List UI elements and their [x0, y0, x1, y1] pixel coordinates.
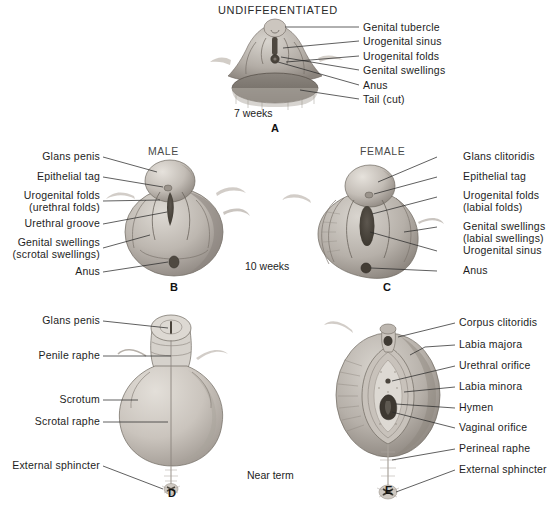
label-hymen: Hymen [459, 402, 493, 414]
stage-7-weeks: 7 weeks [234, 107, 273, 119]
label-external-sphincter-e: External sphincter [459, 464, 547, 476]
label-scrotum: Scrotum [0, 394, 100, 406]
label-tail-cut: Tail (cut) [363, 94, 405, 106]
panel-letter-e: E [385, 484, 392, 496]
label-labia-majora: Labia majora [459, 339, 522, 351]
panel-b-heading: MALE [148, 145, 179, 157]
illustration-panel-a [210, 19, 343, 110]
label-corpus-clitoridis: Corpus clitoridis [459, 317, 537, 329]
panel-a-heading: UNDIFFERENTIATED [218, 4, 338, 16]
label-anus-b: Anus [0, 266, 100, 278]
label-glans-penis-d: Glans penis [0, 315, 100, 327]
label-genital-swellings-c: Genital swellings [463, 221, 545, 233]
label-epithelial-tag-b: Epithelial tag [0, 171, 100, 183]
label-urogenital-sinus-c: Urogenital sinus [463, 245, 542, 257]
figure-external-genitalia-development: UNDIFFERENTIATED Genital tubercle Urogen… [0, 0, 551, 505]
label-external-sphincter-d: External sphincter [0, 460, 100, 472]
label-penile-raphe: Penile raphe [0, 350, 100, 362]
label-epithelial-tag-c: Epithelial tag [463, 171, 526, 183]
label-urethral-orifice: Urethral orifice [459, 360, 531, 372]
panel-letter-d: D [168, 487, 176, 499]
label-urogenital-folds-b: Urogenital folds [0, 190, 100, 202]
label-urogenital-sinus-a: Urogenital sinus [363, 36, 442, 48]
label-vaginal-orifice: Vaginal orifice [459, 422, 527, 434]
label-glans-clitoridis-c: Glans clitoridis [463, 151, 535, 163]
panel-letter-c: C [383, 281, 391, 293]
label-scrotal-raphe: Scrotal raphe [0, 416, 100, 428]
label-genital-swellings-a: Genital swellings [363, 65, 445, 77]
stage-10-weeks: 10 weeks [245, 260, 289, 272]
label-perineal-raphe: Perineal raphe [459, 443, 530, 455]
illustration-panel-d [118, 315, 228, 495]
panel-letter-b: B [170, 281, 178, 293]
label-genital-swellings-c-sub: (labial swellings) [463, 233, 544, 245]
panel-letter-a: A [271, 122, 279, 134]
label-urogenital-folds-c-sub: (labial folds) [463, 202, 523, 214]
label-genital-swellings-b-sub: (scrotal swellings) [0, 249, 100, 261]
label-genital-tubercle: Genital tubercle [363, 22, 440, 34]
label-anus-c: Anus [463, 265, 488, 277]
label-anus-a: Anus [363, 80, 388, 92]
label-labia-minora: Labia minora [459, 381, 522, 393]
illustration-panel-b [106, 160, 250, 276]
panel-c-heading: FEMALE [360, 145, 405, 157]
label-urethral-groove: Urethral groove [0, 218, 100, 230]
label-genital-swellings-b: Genital swellings [0, 237, 100, 249]
stage-near-term: Near term [247, 469, 294, 481]
label-urogenital-folds-b-sub: (urethral folds) [0, 202, 100, 214]
label-glans-penis-b: Glans penis [0, 151, 100, 163]
label-urogenital-folds-a: Urogenital folds [363, 51, 439, 63]
label-urogenital-folds-c: Urogenital folds [463, 190, 539, 202]
